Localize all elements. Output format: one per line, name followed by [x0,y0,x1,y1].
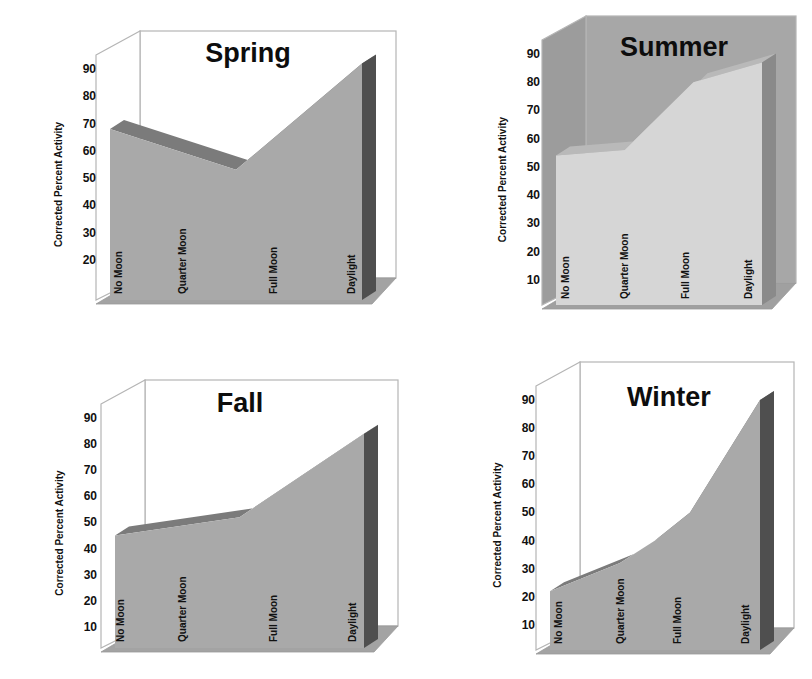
y-tick-label: 40 [84,542,98,556]
y-tick-label: 30 [83,226,97,240]
area-side-surface [364,425,378,648]
y-tick-label: 20 [527,245,541,259]
x-category-label: Daylight [347,602,358,642]
y-tick-label: 70 [522,449,536,463]
y-tick-label: 90 [84,411,98,425]
y-tick-label: 30 [84,568,98,582]
x-category-label: Quarter Moon [177,576,188,642]
y-tick-label: 50 [522,505,536,519]
chart-summer: Summer102030405060708090Corrected Percen… [497,16,796,309]
x-category-label: Full Moon [680,252,691,299]
x-category-label: Daylight [740,604,751,644]
y-tick-label: 60 [83,144,97,158]
y-tick-label: 80 [527,75,541,89]
x-category-label: Full Moon [672,597,683,644]
y-tick-label: 10 [522,618,536,632]
y-tick-label: 10 [527,273,541,287]
y-axis-label: Corrected Percent Activity [54,470,65,596]
y-tick-label: 80 [84,437,98,451]
y-tick-label: 90 [522,393,536,407]
y-tick-label: 20 [522,590,536,604]
x-category-label: Full Moon [268,595,279,642]
charts-canvas: Spring2030405060708090Corrected Percent … [0,0,812,679]
chart-title: Winter [627,382,711,412]
y-tick-label: 30 [522,562,536,576]
y-tick-label: 40 [527,188,541,202]
chart-fall: Fall102030405060708090Corrected Percent … [54,380,398,652]
y-tick-label: 40 [83,198,97,212]
y-axis-label: Corrected Percent Activity [497,116,508,242]
y-tick-label: 90 [83,62,97,76]
y-tick-label: 70 [527,103,541,117]
y-tick-label: 50 [83,171,97,185]
y-tick-label: 50 [84,515,98,529]
y-tick-label: 80 [83,89,97,103]
y-tick-label: 90 [527,47,541,61]
area-side-surface [762,53,776,305]
x-category-label: Daylight [743,259,754,299]
chart-title: Spring [205,38,291,68]
y-tick-label: 80 [522,421,536,435]
y-tick-label: 20 [84,594,98,608]
x-category-label: Quarter Moon [177,228,188,294]
x-category-label: No Moon [113,251,124,294]
chart-title: Fall [217,388,264,418]
x-category-label: Daylight [346,254,357,294]
chart-title: Summer [620,32,729,62]
y-axis-label: Corrected Percent Activity [492,462,503,588]
y-tick-label: 20 [83,253,97,267]
y-tick-label: 40 [522,534,536,548]
area-side-surface [760,391,774,650]
y-tick-label: 60 [527,132,541,146]
chart-winter: Winter102030405060708090Corrected Percen… [492,362,794,654]
y-tick-label: 10 [84,620,98,634]
x-category-label: No Moon [115,599,126,642]
x-category-label: No Moon [560,256,571,299]
y-tick-label: 60 [84,489,98,503]
x-category-label: Quarter Moon [619,233,630,299]
x-category-label: No Moon [553,601,564,644]
y-tick-label: 50 [527,160,541,174]
chart-spring: Spring2030405060708090Corrected Percent … [53,31,396,304]
y-tick-label: 30 [527,216,541,230]
x-category-label: Quarter Moon [615,578,626,644]
x-category-label: Full Moon [268,247,279,294]
y-tick-label: 60 [522,477,536,491]
area-side-surface [362,55,376,300]
y-tick-label: 70 [84,463,98,477]
y-tick-label: 70 [83,117,97,131]
y-axis-label: Corrected Percent Activity [53,121,64,247]
